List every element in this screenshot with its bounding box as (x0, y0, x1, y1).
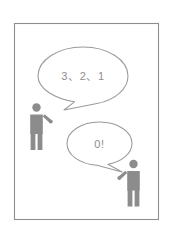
scene-canvas: 3、2、1 0! (0, 0, 171, 235)
left-person-leg-left (31, 133, 36, 150)
left-person-hand (49, 120, 53, 124)
right-person-head (129, 160, 137, 168)
left-person-head (32, 103, 40, 111)
right-person-leg-left (128, 190, 133, 207)
right-person-torso (127, 171, 140, 191)
bubble-countdown-text: 3、2、1 (61, 70, 104, 82)
right-person-hand (117, 176, 121, 180)
left-person-leg-right (38, 133, 43, 150)
left-person-torso (30, 115, 43, 135)
right-person-leg-right (135, 190, 140, 207)
bubble-zero-text: 0! (94, 138, 104, 150)
comic-panel-illustration: 3、2、1 0! (0, 0, 171, 235)
